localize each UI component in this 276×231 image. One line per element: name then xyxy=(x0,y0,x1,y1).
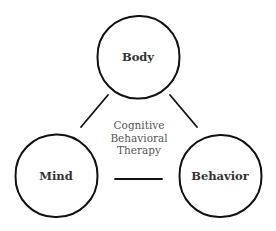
cbt-triangle-diagram: Body Mind Behavior Cognitive Behavioral … xyxy=(0,0,276,231)
center-title-line-3: Therapy xyxy=(117,144,161,156)
node-mind: Mind xyxy=(15,134,97,217)
center-title-line-2: Behavioral xyxy=(110,132,168,144)
node-behavior: Behavior xyxy=(179,135,261,217)
node-mind-label: Mind xyxy=(39,169,73,183)
center-title-line-1: Cognitive xyxy=(114,119,165,131)
node-body-label: Body xyxy=(122,50,154,64)
edge-body-mind xyxy=(81,95,108,127)
node-body: Body xyxy=(97,16,179,99)
edge-body-behavior xyxy=(170,95,197,127)
center-title: Cognitive Behavioral Therapy xyxy=(110,119,168,156)
node-behavior-label: Behavior xyxy=(191,169,250,183)
